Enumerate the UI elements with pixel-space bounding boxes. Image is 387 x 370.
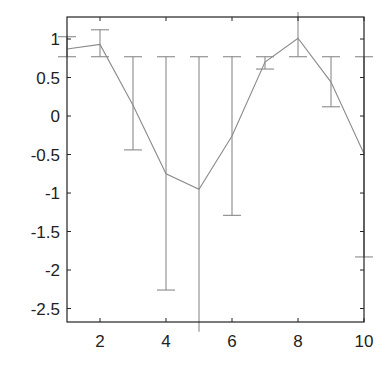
error-bar — [91, 30, 109, 57]
error-bar-chart: 246810 10.50-0.5-1-1.5-2-2.5 — [0, 0, 387, 370]
x-tick-label: 4 — [161, 332, 170, 351]
error-bar — [124, 57, 142, 150]
x-tick-label: 8 — [293, 332, 302, 351]
x-axis-ticks: 246810 — [95, 17, 373, 351]
axes — [67, 17, 364, 322]
y-tick-label: 0 — [51, 107, 60, 126]
data-line — [67, 38, 364, 189]
y-tick-label: -2.5 — [31, 300, 60, 319]
error-bar — [157, 57, 175, 290]
y-tick-label: -0.5 — [31, 146, 60, 165]
x-tick-label: 2 — [95, 332, 104, 351]
axes-frame — [67, 17, 364, 322]
y-axis-ticks: 10.50-0.5-1-1.5-2-2.5 — [31, 30, 364, 319]
x-tick-label: 6 — [227, 332, 236, 351]
y-tick-label: -1.5 — [31, 223, 60, 242]
x-tick-label: 10 — [355, 332, 374, 351]
y-tick-label: -2 — [45, 261, 60, 280]
y-tick-label: 1 — [51, 30, 60, 49]
error-bar — [322, 57, 340, 107]
error-bar — [256, 57, 274, 69]
error-bar — [190, 57, 208, 332]
y-tick-label: 0.5 — [36, 69, 60, 88]
error-bar — [223, 57, 241, 216]
plot-area — [58, 12, 373, 332]
y-tick-label: -1 — [45, 184, 60, 203]
